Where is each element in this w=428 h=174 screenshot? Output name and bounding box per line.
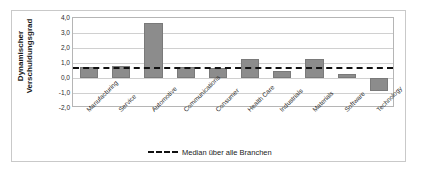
bar [370,78,388,91]
chart-legend: Median über alle Branchen [148,146,272,158]
y-axis-title: Dynamischer Verschuldungsgrad [16,1,34,111]
y-axis-tick-label: 4,0 [48,14,70,21]
bar [144,23,162,79]
y-axis-tick-labels: 4,03,02,01,00,0-1,0-2,0 [48,12,70,112]
y-axis-tick-label: 0,0 [48,74,70,81]
bar [273,71,291,78]
median-line-icon [148,151,178,153]
y-axis-tick-label: 3,0 [48,29,70,36]
y-axis-tick-label: -1,0 [48,89,70,96]
y-axis-tick-label: 1,0 [48,59,70,66]
median-reference-line [73,67,393,69]
chart-figure: Dynamischer Verschuldungsgrad 4,03,02,01… [0,0,428,174]
y-axis-tick-label: -2,0 [48,104,70,111]
y-axis-tick-label: 2,0 [48,44,70,51]
legend-label-median: Median über alle Branchen [182,148,272,157]
bar [338,74,356,78]
